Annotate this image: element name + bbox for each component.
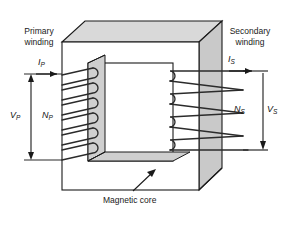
secondary-voltage-arrow — [260, 73, 266, 150]
secondary-current-symbol: IS — [228, 54, 235, 64]
primary-winding-label: Primary winding — [8, 26, 70, 47]
primary-winding-label-line2: winding — [8, 37, 70, 48]
secondary-winding-label-line2: winding — [216, 37, 284, 48]
magnetic-core-label: Magnetic core — [103, 195, 156, 206]
primary-voltage-symbol: VP — [10, 110, 20, 120]
secondary-winding-label: Secondary winding — [216, 26, 284, 47]
primary-turns-symbol: NP — [42, 110, 53, 120]
core-top-face — [62, 21, 222, 42]
primary-current-symbol: IP — [38, 57, 45, 67]
primary-winding-label-line1: Primary — [8, 26, 70, 37]
secondary-turns-symbol: NS — [234, 104, 245, 114]
primary-current-arrow — [36, 71, 57, 77]
primary-voltage-arrow — [28, 74, 34, 160]
secondary-current-arrow — [229, 68, 252, 74]
secondary-voltage-symbol: VS — [267, 104, 277, 114]
secondary-winding-label-line1: Secondary — [216, 26, 284, 37]
